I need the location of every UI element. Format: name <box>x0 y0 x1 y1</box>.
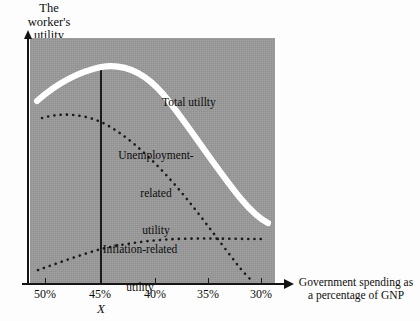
x-axis-caption-line-1: Government spending as <box>294 276 418 289</box>
x-axis-tick-label-40pct: 40% <box>132 287 178 302</box>
x-axis-tick-35pct <box>208 278 209 284</box>
x-axis-tick-50pct <box>45 278 46 284</box>
x-axis-caption-line-2: a percentage of GNP <box>294 289 418 302</box>
x-marker-label: X <box>78 301 124 317</box>
label-total-utility-line-1: Total utillty <box>162 96 254 109</box>
label-unemployment-utility-line-2: related <box>108 187 204 200</box>
label-inflation-utility-line-1: Inflation-related <box>88 243 192 256</box>
y-axis-line <box>27 38 29 284</box>
x-axis-arrow-icon <box>284 279 294 289</box>
x-axis-tick-label-45pct: 45% <box>77 287 123 302</box>
x-axis-tick-30pct <box>261 278 262 284</box>
x-axis-tick-label-50pct: 50% <box>22 287 68 302</box>
figure-container: The worker's utility Total utillty Unemp… <box>0 0 420 321</box>
y-axis-title-line-2: worker's <box>2 16 96 30</box>
label-unemployment-utility-line-1: Unemployment- <box>108 149 204 162</box>
x-axis-tick-40pct <box>155 278 156 284</box>
x-axis-tick-label-35pct: 35% <box>185 287 231 302</box>
x-axis-tick-label-30pct: 30% <box>238 287 284 302</box>
y-axis-arrow-icon <box>24 30 32 39</box>
x-axis-tick-45pct <box>100 278 101 284</box>
y-axis-title-line-1: The <box>2 2 96 16</box>
y-axis-title: The worker's utility <box>2 2 96 43</box>
x-axis-caption: Government spending as a percentage of G… <box>294 276 418 302</box>
